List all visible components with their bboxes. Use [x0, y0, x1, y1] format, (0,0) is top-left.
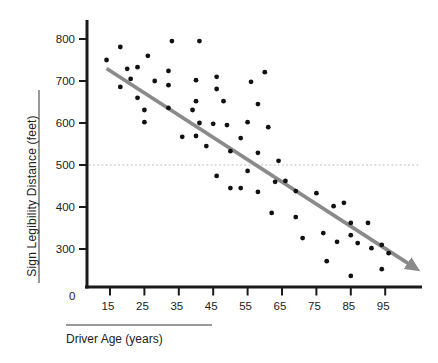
- data-point: [125, 66, 130, 71]
- data-point: [128, 77, 133, 82]
- data-point: [211, 121, 216, 126]
- y-tick-label: 800: [56, 33, 75, 45]
- data-point: [348, 221, 353, 226]
- data-point: [104, 58, 109, 63]
- data-point: [283, 179, 288, 184]
- data-point: [273, 179, 278, 184]
- y-tick-label: 700: [56, 75, 75, 87]
- data-point: [269, 210, 274, 215]
- y-tick-label: 600: [56, 117, 75, 129]
- data-point: [245, 168, 250, 173]
- x-axis-label-overline: [66, 324, 212, 326]
- data-point: [379, 242, 384, 247]
- chart-generated-content: 300400500600700800152535455565758595: [56, 20, 422, 312]
- data-point: [135, 65, 140, 70]
- data-point: [152, 79, 157, 84]
- data-point: [190, 108, 195, 113]
- x-tick-label: 45: [205, 300, 218, 312]
- y-axis-title: Sign Legibility Distance (feet): [25, 115, 39, 277]
- data-point: [166, 83, 171, 88]
- data-point: [180, 134, 185, 139]
- data-point: [386, 251, 391, 256]
- data-point: [118, 45, 123, 50]
- data-point: [225, 123, 230, 128]
- data-point: [204, 144, 209, 149]
- data-point: [300, 236, 305, 241]
- x-tick-label: 35: [170, 300, 183, 312]
- x-axis-title: Driver Age (years): [66, 332, 163, 346]
- data-point: [256, 150, 261, 155]
- data-point: [348, 233, 353, 238]
- data-point: [342, 200, 347, 205]
- scatter-plot-figure: 300400500600700800152535455565758595 Sig…: [0, 0, 438, 363]
- data-point: [166, 105, 171, 110]
- x-tick-label: 85: [342, 300, 355, 312]
- data-point: [197, 121, 202, 126]
- data-point: [142, 108, 147, 113]
- data-point: [228, 186, 233, 191]
- y-tick-label: 500: [56, 159, 75, 171]
- data-point: [379, 267, 384, 272]
- data-point: [324, 259, 329, 264]
- x-tick-label: 25: [136, 300, 149, 312]
- data-point: [321, 231, 326, 236]
- data-point: [293, 215, 298, 220]
- x-tick-label: 55: [239, 300, 252, 312]
- data-point: [194, 99, 199, 104]
- data-point: [348, 273, 353, 278]
- data-point: [214, 87, 219, 92]
- data-point: [256, 189, 261, 194]
- data-point: [369, 246, 374, 251]
- data-point: [262, 70, 267, 75]
- x-axis-origin-label: 0: [69, 290, 75, 302]
- data-point: [142, 120, 147, 125]
- data-point: [170, 39, 175, 44]
- data-point: [256, 102, 261, 107]
- chart-canvas: 300400500600700800152535455565758595: [0, 0, 438, 363]
- data-point: [314, 191, 319, 196]
- data-point: [293, 189, 298, 194]
- data-point: [238, 186, 243, 191]
- x-tick-label: 95: [377, 300, 390, 312]
- data-point: [194, 134, 199, 139]
- data-point: [249, 79, 254, 84]
- data-point: [166, 69, 171, 74]
- x-tick-label: 65: [274, 300, 287, 312]
- data-point: [214, 74, 219, 79]
- data-point: [366, 221, 371, 226]
- data-point: [194, 78, 199, 83]
- data-point: [276, 158, 281, 163]
- data-point: [228, 149, 233, 154]
- data-point: [266, 125, 271, 130]
- data-point: [245, 120, 250, 125]
- y-tick-label: 400: [56, 201, 75, 213]
- x-tick-label: 15: [102, 300, 115, 312]
- data-point: [238, 136, 243, 141]
- y-tick-label: 300: [56, 243, 75, 255]
- x-tick-label: 75: [308, 300, 321, 312]
- data-point: [118, 84, 123, 89]
- data-point: [221, 99, 226, 104]
- trend-line-arrow: [107, 68, 410, 264]
- data-point: [197, 39, 202, 44]
- data-point: [145, 53, 150, 58]
- data-point: [331, 204, 336, 209]
- data-point: [355, 241, 360, 246]
- data-point: [335, 239, 340, 244]
- data-point: [214, 174, 219, 179]
- data-point: [135, 95, 140, 100]
